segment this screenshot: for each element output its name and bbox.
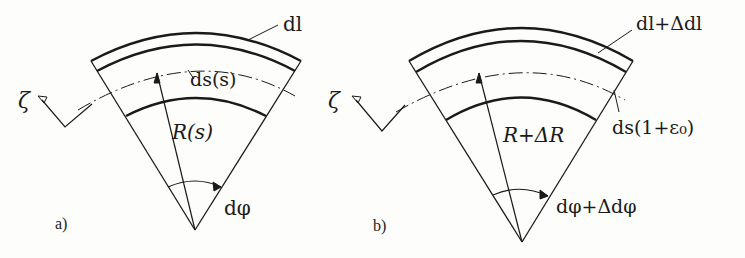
radius-label-a: R(s) — [172, 122, 213, 142]
ds-label-b: ds(1+ε₀) — [612, 118, 694, 137]
beam-element-diagram: ζ dl ds(s) R(s) dφ a) ζ dl+Δdl ds(1+ε₀) … — [0, 0, 745, 258]
panel-b-tag: b) — [373, 218, 386, 234]
radius-label-b: R+ΔR — [503, 125, 564, 145]
dl-label-a: dl — [283, 14, 302, 34]
ds-label-a: ds(s) — [190, 70, 237, 89]
panel-a-geometry — [38, 25, 301, 230]
angle-label-a: dφ — [224, 198, 251, 218]
panel-a-tag: a) — [55, 216, 67, 232]
dl-label-b: dl+Δdl — [636, 14, 702, 33]
angle-label-b: dφ+Δdφ — [556, 197, 637, 216]
zeta-axis-label-a: ζ — [18, 90, 30, 112]
zeta-axis-label-b: ζ — [328, 90, 340, 112]
